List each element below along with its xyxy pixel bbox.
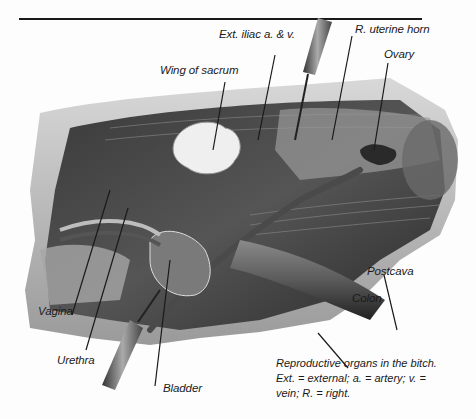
caption-line-3: vein; R. = right.: [276, 386, 476, 401]
caption-line-2: Ext. = external; a. = artery; v. =: [276, 371, 476, 386]
label-urethra: Urethra: [57, 354, 95, 366]
label-bladder: Bladder: [163, 382, 202, 394]
retractor-top: [303, 18, 332, 75]
label-postcava: Postcava: [367, 265, 414, 277]
figure-caption: Reproductive organs in the bitch. Ext. =…: [276, 356, 476, 401]
label-ext-iliac: Ext. iliac a. & v.: [219, 28, 295, 40]
figure-page: Ext. iliac a. & v. R. uterine horn Wing …: [0, 0, 476, 419]
label-wing-of-sacrum: Wing of sacrum: [160, 64, 238, 76]
caption-line-1: Reproductive organs in the bitch.: [276, 356, 476, 371]
label-r-uterine-horn: R. uterine horn: [355, 23, 430, 35]
label-colon: Colon: [352, 292, 382, 304]
label-ovary: Ovary: [384, 48, 414, 60]
label-vagina: Vagina: [38, 305, 73, 317]
